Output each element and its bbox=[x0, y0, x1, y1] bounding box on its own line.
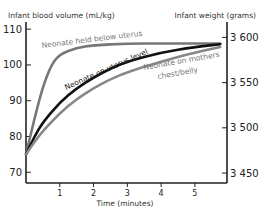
y2-axis-label: Infant weight (grams) bbox=[175, 11, 257, 20]
y-tick-label: 100 bbox=[3, 59, 22, 70]
x-tick-label: 3 bbox=[125, 189, 130, 198]
x-axis-label: Time (minutes) bbox=[96, 199, 154, 208]
y2-tick-label: 3 500 bbox=[230, 122, 259, 133]
y2-tick-label: 3 600 bbox=[230, 32, 259, 43]
chart: Infant blood volume (mL/kg) Infant weigh… bbox=[0, 0, 264, 213]
x-tick-label: 2 bbox=[91, 189, 96, 198]
x-tick-label: 1 bbox=[57, 189, 62, 198]
y-tick-label: 110 bbox=[3, 24, 22, 35]
x-tick-label: 5 bbox=[192, 189, 197, 198]
x-tick-label: 4 bbox=[159, 189, 164, 198]
y-tick-label: 80 bbox=[9, 131, 22, 142]
y2-tick-label: 3 550 bbox=[230, 77, 259, 88]
y2-tick-label: 3 450 bbox=[230, 168, 259, 179]
y-tick-label: 90 bbox=[9, 95, 22, 106]
y-tick-label: 70 bbox=[9, 167, 22, 178]
y-axis-label: Infant blood volume (mL/kg) bbox=[8, 11, 115, 20]
